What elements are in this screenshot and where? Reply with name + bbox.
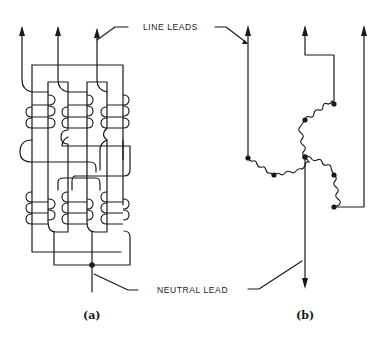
neutral-lead-label: NEUTRAL LEAD (157, 285, 228, 295)
line-leads-callout-line-b (215, 27, 247, 43)
coil-phase-2-b (299, 101, 334, 157)
panel-a-caption: (a) (83, 309, 101, 322)
panel-b-caption: (b) (296, 309, 314, 322)
crossover-wiring-a (20, 137, 130, 190)
neutral-lead-callout-line-a (94, 274, 138, 290)
neutral-bus-a (54, 231, 130, 292)
neutral-junction-dot-a (89, 262, 95, 268)
coil-group-a-bottom (26, 192, 129, 224)
panel-b-wye-schematic (245, 25, 367, 289)
line-leads-callout-line (97, 27, 128, 40)
neutral-lead-callout-line-b (248, 261, 302, 289)
coil-phase-1-b (248, 157, 309, 175)
coil-group-a-top (26, 95, 129, 128)
panel-a-winding-layout (19, 26, 130, 292)
line-leads-label: LINE LEADS (143, 22, 198, 32)
coil-terminal-dots-b (245, 101, 336, 209)
coil-phase-3-b (305, 156, 340, 207)
